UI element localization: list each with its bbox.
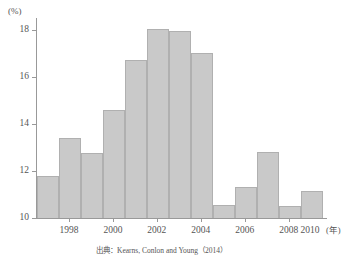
x-tick-label: 2006 bbox=[235, 224, 254, 237]
x-tick-label: 2002 bbox=[147, 224, 166, 237]
y-tick-label: 14 bbox=[20, 117, 30, 130]
x-tick-label: 2010 bbox=[301, 224, 320, 237]
x-tick-label: 2008 bbox=[279, 224, 298, 237]
x-tick-mark bbox=[113, 218, 114, 222]
x-tick-mark bbox=[157, 218, 158, 222]
x-tick-label: 2000 bbox=[103, 224, 122, 237]
x-tick-mark bbox=[289, 218, 290, 222]
y-tick-label: 12 bbox=[20, 164, 30, 177]
bar bbox=[125, 60, 147, 218]
x-tick-mark bbox=[245, 218, 246, 222]
bar bbox=[191, 53, 213, 218]
x-tick-label: 2004 bbox=[191, 224, 210, 237]
y-tick-label: 10 bbox=[20, 211, 30, 224]
x-tick-mark bbox=[201, 218, 202, 222]
y-tick-label: 16 bbox=[20, 70, 30, 83]
bar bbox=[37, 176, 59, 218]
bar bbox=[213, 205, 235, 218]
bar bbox=[169, 31, 191, 218]
bar bbox=[301, 191, 323, 218]
bar bbox=[81, 153, 103, 218]
bar bbox=[279, 206, 301, 218]
source-note: 出典：Kearns, Conlon and Young（2014） bbox=[96, 245, 227, 256]
y-tick-label: 18 bbox=[20, 23, 30, 36]
x-axis-unit-label: (年) bbox=[326, 224, 341, 237]
bar bbox=[147, 29, 169, 218]
bar bbox=[235, 187, 257, 218]
x-tick-label: 1998 bbox=[59, 224, 78, 237]
x-axis-line bbox=[36, 218, 327, 219]
plot-area: 1012141618 1998200020022004200620082010 … bbox=[36, 18, 326, 218]
y-tick-mark bbox=[32, 218, 37, 219]
bar bbox=[59, 138, 81, 218]
bar-series bbox=[37, 18, 327, 218]
bar bbox=[257, 152, 279, 218]
bar bbox=[103, 110, 125, 218]
histogram-figure: (%) 1012141618 1998200020022004200620082… bbox=[0, 0, 342, 262]
y-axis-unit-label: (%) bbox=[8, 6, 22, 17]
x-tick-mark bbox=[69, 218, 70, 222]
